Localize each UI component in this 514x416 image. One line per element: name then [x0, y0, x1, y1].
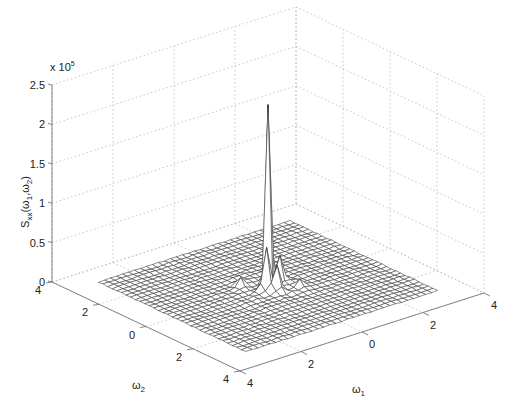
y-tick-label: 2 [82, 306, 88, 318]
y-tick [187, 349, 193, 350]
grid-line-z [52, 125, 296, 203]
z-tick-label: 0.5 [30, 237, 45, 249]
x-tick [301, 352, 307, 355]
x-tick [362, 332, 368, 335]
x-tick-label: 0 [369, 338, 375, 350]
z-tick-label: 1 [39, 197, 45, 209]
z-tick [48, 123, 52, 124]
z-tick-label: 1.5 [30, 158, 45, 170]
x-tick-label: 2 [308, 358, 314, 370]
y-tick-label: 4 [35, 284, 41, 296]
y-tick [234, 371, 240, 372]
z-tick-label: 2.5 [30, 79, 45, 91]
x-axis-label: ω1 [352, 383, 366, 398]
svg-text:Sxx(ω1,ω2): Sxx(ω1,ω2) [19, 176, 34, 228]
x-tick [484, 293, 490, 296]
surface-plot: 00.511.522.54202442024 x 105 Sxx(ω1,ω2) … [0, 0, 514, 416]
x-tick-label: 4 [247, 377, 253, 389]
z-multiplier-base: x 10 [50, 61, 71, 73]
y-tick [93, 304, 99, 305]
z-tick [48, 84, 52, 85]
y-tick-label: 2 [176, 351, 182, 363]
surface-mesh [98, 105, 437, 352]
z-multiplier-exp: 5 [71, 60, 75, 67]
y-tick-label: 0 [129, 329, 135, 341]
y-tick-label: 4 [223, 373, 229, 385]
y-tick [140, 327, 146, 328]
x-tick [240, 371, 246, 374]
y-axis-label: ω2 [132, 379, 146, 394]
y-tick [46, 282, 52, 283]
z-tick [48, 202, 52, 203]
z-tick-label: 2 [39, 118, 45, 130]
z-tick [48, 163, 52, 164]
z-tick [48, 242, 52, 243]
x-tick-label: 4 [491, 299, 497, 311]
x-tick [423, 313, 429, 316]
z-axis-label: Sxx(ω1,ω2) [19, 176, 34, 228]
z-multiplier-label: x 105 [50, 60, 75, 73]
x-tick-label: 2 [430, 319, 436, 331]
grid-line-z [296, 125, 484, 214]
